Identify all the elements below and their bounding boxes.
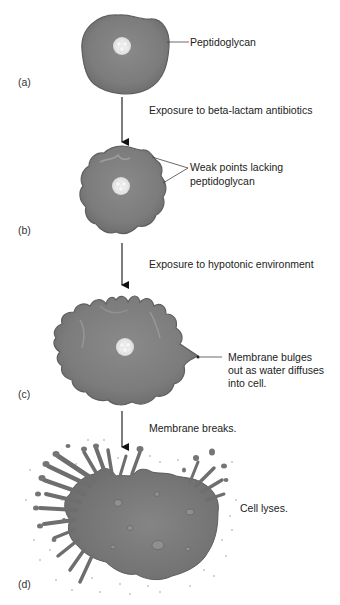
panel-label-d: (d) <box>18 578 31 590</box>
nucleoid-icon <box>112 177 130 195</box>
callout-peptidoglycan: Peptidoglycan <box>190 36 256 49</box>
cell-b-weakened <box>80 146 188 234</box>
nucleoid-icon <box>113 37 131 55</box>
panel-label-b: (b) <box>18 224 31 236</box>
cell-a-intact <box>82 15 189 94</box>
callout-cell-lyses: Cell lyses. <box>240 502 288 515</box>
cell-d-lysed <box>25 439 237 595</box>
diagram-graphics <box>0 0 340 605</box>
transition-beta-lactam: Exposure to beta-lactam antibiotics <box>149 104 312 117</box>
diagram-canvas: (a) (b) (c) (d) Peptidoglycan Weak point… <box>0 0 340 605</box>
callout-membrane-bulges-line2: out as water diffuses <box>228 364 324 377</box>
transition-membrane-breaks: Membrane breaks. <box>149 422 237 435</box>
callout-membrane-bulges-line1: Membrane bulges <box>228 351 312 364</box>
callout-membrane-bulges-line3: into cell. <box>228 377 267 390</box>
panel-label-a: (a) <box>18 76 31 88</box>
cell-c-bulging <box>54 296 222 405</box>
callout-weak-points-line2: peptidoglycan <box>190 175 255 188</box>
nucleoid-icon <box>116 338 134 356</box>
callout-weak-points-line1: Weak points lacking <box>190 161 283 174</box>
panel-label-c: (c) <box>18 388 30 400</box>
transition-hypotonic: Exposure to hypotonic environment <box>149 258 314 271</box>
